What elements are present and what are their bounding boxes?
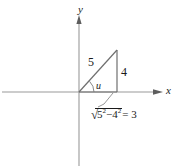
y-axis-label: y — [78, 4, 83, 15]
angle-arc — [90, 81, 94, 92]
opposite-side-label: 4 — [121, 66, 127, 78]
radicand-second-exponent: 2 — [118, 107, 122, 115]
radical-sign-icon: √ — [91, 108, 98, 121]
x-axis-arrowhead — [153, 89, 163, 94]
radicand: 52−42 — [95, 108, 122, 120]
y-axis-arrowhead — [76, 15, 81, 24]
angle-label: u — [96, 81, 101, 91]
base-length-expression: √ 52−42 = 3 — [92, 108, 137, 120]
base-result: = 3 — [122, 108, 136, 120]
x-axis-label: x — [166, 85, 171, 96]
math-figure: y x 5 4 u √ 52−42 = 3 — [0, 0, 177, 166]
radical-group: √ 52−42 — [92, 108, 122, 120]
hypotenuse-label: 5 — [88, 56, 94, 68]
base-label-leader-line — [98, 93, 113, 107]
figure-canvas — [0, 0, 177, 166]
